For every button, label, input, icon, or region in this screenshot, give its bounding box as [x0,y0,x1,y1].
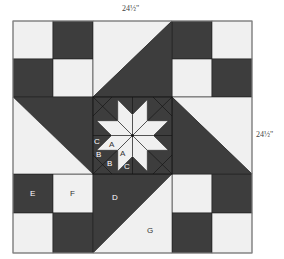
hst-left-middle [13,97,93,174]
four-patch-bottom-right [172,174,252,253]
hst-right-middle [172,97,252,174]
quilt-block-diagram: C A A B B C E F D G [0,0,284,259]
hst-top-center [93,21,172,97]
label-c-2: C [124,162,130,171]
label-g: G [147,226,153,235]
hst-bottom-center [93,174,172,253]
label-a-1: A [109,140,115,149]
four-patch-top-left [13,21,93,97]
label-b-1: B [96,150,101,159]
label-c-1: C [94,137,100,146]
label-a-2: A [120,149,126,158]
four-patch-bottom-left [13,174,93,253]
label-f: F [70,189,75,198]
center-star-block [93,97,172,174]
label-d: D [112,193,118,202]
four-patch-top-right [172,21,252,97]
label-e: E [30,189,35,198]
label-b-2: B [107,159,112,168]
